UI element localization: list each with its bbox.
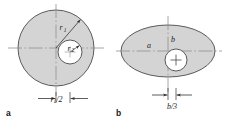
panel-a-dimension-suffix: /2: [55, 95, 62, 104]
panel-a-letter: a: [6, 108, 11, 118]
panel-b-semi-minor-label: b: [171, 35, 175, 44]
cross-section-figure: r 1 r 2 r1/2: [0, 0, 228, 123]
panel-a-r1-label-subscript: 1: [64, 27, 67, 33]
panel-b-dimension-text: b/3: [167, 102, 177, 111]
panel-b-letter: b: [116, 108, 121, 118]
panel-a: r 1 r 2 r1/2: [6, 4, 104, 118]
panel-a-dimension-label: r1/2: [50, 95, 62, 105]
panel-b-semi-major-label: a: [147, 41, 151, 50]
panel-b-dimension-suffix: /3: [170, 102, 177, 111]
panel-a-dimension-text: r1/2: [50, 95, 62, 105]
panel-a-r2-label-subscript: 2: [72, 47, 75, 53]
figure-root: r 1 r 2 r1/2: [0, 0, 228, 123]
panel-b: a b b/3 b: [116, 16, 222, 118]
